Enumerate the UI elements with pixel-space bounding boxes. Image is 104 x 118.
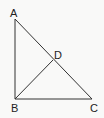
segment-bd <box>15 60 53 99</box>
point-label-d: D <box>54 49 62 61</box>
triangle-figure: A B C D <box>0 0 104 118</box>
point-label-c: C <box>90 102 98 114</box>
geometry-diagram: A B C D <box>0 0 104 118</box>
point-label-a: A <box>10 7 18 19</box>
point-label-b: B <box>11 102 18 114</box>
